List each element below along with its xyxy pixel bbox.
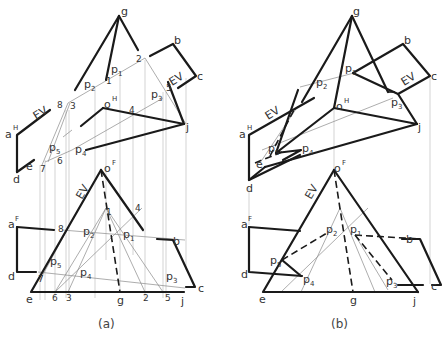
vertex-d-label: d (13, 173, 20, 186)
vertex-e-label: e (26, 160, 33, 173)
ev-label: EV (31, 104, 51, 123)
point-p1-label: p (350, 223, 357, 236)
num-7: 7 (40, 164, 46, 174)
point-p1-label: p (123, 228, 130, 241)
intersection-diagram: g b c j a H o H e d EV EV p 1 p 2 p 3 p … (0, 0, 446, 337)
ev-label: EV (399, 70, 419, 89)
vertex-b-label: b (174, 34, 181, 47)
vertex-j-label: j (417, 121, 421, 134)
point-p2-label: p (84, 78, 91, 91)
ev-label: EV (73, 182, 92, 201)
point-p2-subscript: 2 (91, 85, 95, 93)
point-p5-subscript: 5 (275, 149, 279, 157)
panel-caption-b: (b) (331, 317, 348, 331)
vertex-e-label: e (259, 293, 266, 306)
point-p4-label: p (303, 273, 310, 286)
point-p4-label: p (75, 143, 82, 156)
superscript-h: H (112, 95, 117, 103)
vertex-c-label: c (431, 70, 437, 83)
point-p5-subscript: 5 (277, 261, 281, 269)
point-p2-subscript: 2 (90, 232, 94, 240)
vertex-j-label: j (185, 121, 189, 134)
vertex-o-label: o (104, 162, 111, 175)
num-5: 5 (165, 293, 171, 303)
point-p5-subscript: 5 (56, 148, 60, 156)
panel-a: g b c j a H o H e d EV EV p 1 p 2 p 3 p … (5, 5, 204, 331)
point-p5-subscript: 5 (57, 262, 61, 270)
panel-b: g b c j a H o H e d EV EV p 1 p 2 p 3 p … (239, 5, 441, 331)
superscript-h: H (13, 124, 18, 132)
point-p2-subscript: 2 (323, 83, 327, 91)
num-4: 4 (135, 203, 141, 213)
ev-label: EV (263, 104, 283, 123)
superscript-f: F (15, 215, 19, 223)
point-p1-subscript: 1 (118, 70, 122, 78)
top-view-a (17, 16, 196, 172)
vertex-c-label: c (197, 70, 203, 83)
num-4: 4 (129, 105, 135, 115)
vertex-g-label: g (121, 5, 128, 18)
point-p3-subscript: 3 (158, 95, 162, 103)
vertex-d-label: d (241, 268, 248, 281)
construction-lines-front-b (281, 208, 388, 292)
superscript-f: F (248, 215, 252, 223)
vertex-c-label: c (431, 280, 437, 293)
point-p3-label: p (151, 88, 158, 101)
point-p1-label: p (111, 63, 118, 76)
vertex-b-label: b (173, 235, 180, 248)
vertex-d-label: d (246, 182, 253, 195)
num-2: 2 (143, 293, 149, 303)
vertex-e-label: e (256, 158, 263, 171)
vertex-j-label: j (180, 295, 184, 308)
point-p3-subscript: 3 (173, 277, 177, 285)
vertex-j-label: j (412, 295, 416, 308)
point-p4-subscript: 4 (87, 273, 92, 281)
vertex-b-label: b (406, 233, 413, 246)
superscript-h: H (344, 97, 349, 105)
num-6: 6 (57, 156, 63, 166)
point-p2-subscript: 2 (333, 230, 337, 238)
num-5: 5 (166, 83, 172, 93)
point-p5-label: p (50, 255, 57, 268)
point-p3-label: p (166, 270, 173, 283)
point-p1-label: p (345, 62, 352, 75)
point-p2-label: p (83, 225, 90, 238)
superscript-f: F (112, 159, 116, 167)
point-p3-label: p (391, 96, 398, 109)
num-8: 8 (58, 224, 64, 234)
num-6: 6 (52, 293, 58, 303)
point-p4-subscript: 4 (309, 149, 314, 157)
vertex-a-label: a (8, 218, 15, 231)
num-2: 2 (136, 54, 142, 64)
superscript-f: F (342, 159, 346, 167)
panel-caption-a: (a) (98, 317, 115, 331)
point-p5-label: p (49, 141, 56, 154)
point-p4-subscript: 4 (310, 280, 315, 288)
point-p1-subscript: 1 (352, 69, 356, 77)
point-p3-subscript: 3 (398, 103, 402, 111)
vertex-o-label: o (336, 100, 343, 113)
point-p2-label: p (326, 223, 333, 236)
num-1: 1 (106, 207, 112, 217)
point-p4-subscript: 4 (82, 150, 87, 158)
vertex-g-label: g (117, 294, 124, 307)
superscript-h: H (247, 124, 252, 132)
point-p4-label: p (80, 266, 87, 279)
vertex-a-label: a (239, 128, 246, 141)
vertex-g-label: g (350, 294, 357, 307)
vertex-e-label: e (26, 293, 33, 306)
front-view-b (249, 170, 441, 292)
point-p5-label: p (270, 254, 277, 267)
point-p4-label: p (302, 142, 309, 155)
vertex-c-label: c (198, 282, 204, 295)
num-3: 3 (70, 101, 76, 111)
point-p3-subscript: 3 (393, 282, 397, 290)
point-p3-label: p (386, 275, 393, 288)
vertex-o-label: o (334, 162, 341, 175)
vertex-g-label: g (353, 5, 360, 18)
num-7: 7 (38, 274, 44, 284)
vertex-a-label: a (5, 128, 12, 141)
vertex-d-label: d (8, 270, 15, 283)
num-8: 8 (57, 100, 63, 110)
vertex-b-label: b (404, 34, 411, 47)
